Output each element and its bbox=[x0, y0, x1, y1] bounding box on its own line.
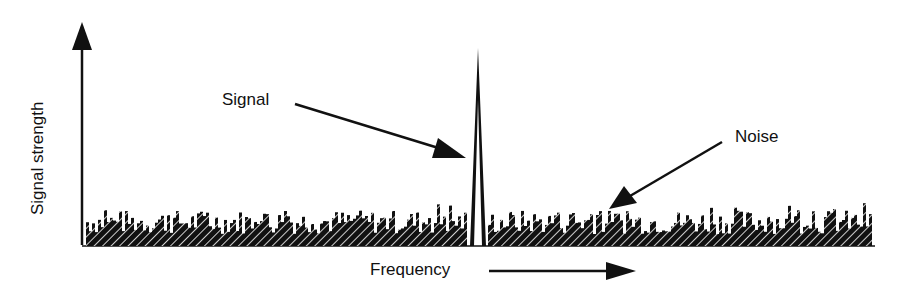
x-axis-label: Frequency bbox=[370, 260, 450, 280]
signal-spike bbox=[470, 48, 486, 246]
signal-arrow bbox=[295, 104, 466, 158]
frequency-arrow bbox=[489, 262, 636, 280]
arrowhead-icon bbox=[606, 262, 636, 280]
noise-label: Noise bbox=[735, 127, 778, 147]
arrowhead-icon bbox=[609, 186, 637, 209]
y-axis-label: Signal strength bbox=[28, 102, 48, 215]
arrowhead-icon bbox=[432, 138, 466, 158]
signal-label: Signal bbox=[222, 90, 269, 110]
noise-arrow bbox=[609, 142, 722, 209]
y-axis bbox=[72, 22, 92, 245]
noise-bars bbox=[86, 203, 872, 246]
arrowhead-icon bbox=[72, 22, 92, 50]
signal-noise-diagram bbox=[0, 0, 917, 300]
